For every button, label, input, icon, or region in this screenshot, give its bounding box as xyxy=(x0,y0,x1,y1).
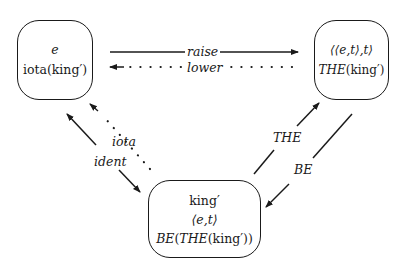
node-predicate: king′ ⟨e,t⟩ BE(THE(king′)) xyxy=(148,180,261,258)
ident-arrow-down xyxy=(119,170,140,192)
iota-arrowhead xyxy=(90,104,98,111)
node-predicate-composite: BE(THE(king′)) xyxy=(156,229,253,248)
ident-arrow-up xyxy=(67,114,96,145)
the-label: THE xyxy=(271,131,303,145)
the-arrow-upper xyxy=(297,103,319,126)
node-quantifier-type: ⟨⟨e,t⟩,t⟩ xyxy=(330,40,373,60)
node-predicate-type: ⟨e,t⟩ xyxy=(191,210,217,229)
node-quantifier-term: THE(king′) xyxy=(319,60,385,80)
be-label: BE xyxy=(292,163,314,177)
node-e-term: iota(king′) xyxy=(23,60,87,80)
be-arrow-lower xyxy=(266,184,289,207)
be-operator: BE xyxy=(156,231,174,246)
raise-label: raise xyxy=(185,45,220,59)
node-e-type: e xyxy=(51,40,58,60)
the-argument: (king′) xyxy=(346,63,385,77)
node-quantifier: ⟨⟨e,t⟩,t⟩ THE(king′) xyxy=(314,20,389,100)
inner-argument: (king′)) xyxy=(208,231,253,246)
ident-label: ident xyxy=(92,155,128,169)
iota-label: iota xyxy=(110,135,138,149)
the-arrow-lower xyxy=(254,150,274,174)
lower-label: lower xyxy=(185,61,225,75)
node-predicate-term: king′ xyxy=(189,191,219,210)
the-operator: THE xyxy=(319,63,346,77)
be-arrow-upper xyxy=(313,114,352,158)
node-e: e iota(king′) xyxy=(17,20,93,100)
the-operator: THE xyxy=(179,231,207,246)
